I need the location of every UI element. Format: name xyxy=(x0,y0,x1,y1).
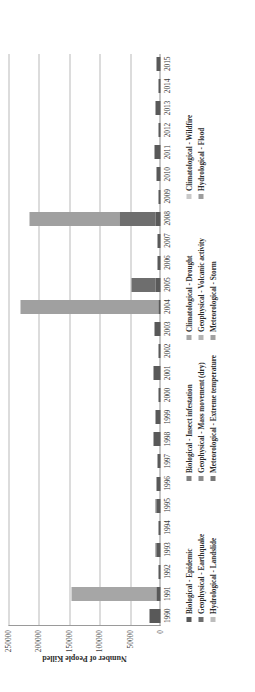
bar-column[interactable] xyxy=(8,388,160,402)
bar-segment[interactable] xyxy=(158,388,160,402)
x-axis-tick-label: 2014 xyxy=(162,79,176,93)
bar-segment[interactable] xyxy=(154,322,160,336)
bar-column[interactable] xyxy=(8,145,160,159)
legend-item[interactable]: Geophysical - Earthquake xyxy=(196,481,205,622)
x-axis-tick-label: 2002 xyxy=(162,344,176,358)
legend-item-label: Geophysical - Earthquake xyxy=(196,534,205,614)
y-axis-tick-label: 250000 xyxy=(4,630,12,652)
bar-column[interactable] xyxy=(8,278,160,292)
legend-item[interactable]: Meteorological - Extreme temperature xyxy=(208,340,217,481)
x-axis-tick-label: 2013 xyxy=(162,101,176,115)
x-axis-tick-label: 1993 xyxy=(162,543,176,557)
bar-column[interactable] xyxy=(8,543,160,557)
bar-segment[interactable] xyxy=(29,212,118,226)
legend-swatch-icon xyxy=(186,617,191,622)
legend-swatch-icon xyxy=(198,194,203,199)
bar-segment[interactable] xyxy=(71,587,156,601)
bar-segment[interactable] xyxy=(157,454,160,468)
x-axis-tick-label: 2000 xyxy=(162,388,176,402)
bar-segment[interactable] xyxy=(155,278,160,292)
bar-column[interactable] xyxy=(8,587,160,601)
bar-segment[interactable] xyxy=(158,521,160,535)
legend-item-label: Geophysical - Volcanic activity xyxy=(196,238,205,332)
x-axis-tick-label: 2015 xyxy=(162,57,176,71)
bar-segment[interactable] xyxy=(156,57,160,71)
bar-segment[interactable] xyxy=(131,278,155,292)
bar-column[interactable] xyxy=(8,521,160,535)
bar-segment[interactable] xyxy=(157,234,160,248)
bar-segment[interactable] xyxy=(154,145,160,159)
legend-item-label: Hydrological - Flood xyxy=(196,128,205,191)
x-axis-tick-label: 2006 xyxy=(162,256,176,270)
legend-item-label: Meteorological - Extreme temperature xyxy=(208,355,217,473)
legend-column: Climatological - WildfireHydrological - … xyxy=(184,58,217,199)
bar-column[interactable] xyxy=(8,344,160,358)
bar-column[interactable] xyxy=(8,57,160,71)
bar-segment[interactable] xyxy=(153,432,160,446)
legend-swatch-icon xyxy=(210,335,215,340)
legend-item[interactable]: Geophysical - Volcanic activity xyxy=(196,199,205,340)
bar-column[interactable] xyxy=(8,609,160,623)
legend-item[interactable]: Biological - Epidemic xyxy=(184,481,193,622)
bar-column[interactable] xyxy=(8,212,160,226)
bar-column[interactable] xyxy=(8,366,160,380)
bar-segment[interactable] xyxy=(155,410,160,424)
bar-segment[interactable] xyxy=(156,499,160,513)
chart-figure: Number of People Killed 2500002000001500… xyxy=(0,0,255,692)
bar-segment[interactable] xyxy=(119,212,155,226)
bar-column[interactable] xyxy=(8,322,160,336)
bar-column[interactable] xyxy=(8,477,160,491)
bar-column[interactable] xyxy=(8,79,160,93)
y-axis-tick-labels: 250000200000150000100000500000 xyxy=(8,630,160,692)
legend-item[interactable]: Biological - Insect infestation xyxy=(184,340,193,481)
x-axis-tick-label: 2004 xyxy=(162,300,176,314)
legend-item[interactable]: Geophysical - Mass movement (dry) xyxy=(196,340,205,481)
bar-column[interactable] xyxy=(8,123,160,137)
x-axis-tick-label: 2003 xyxy=(162,322,176,336)
bar-column[interactable] xyxy=(8,300,160,314)
legend-item[interactable]: Hydrological - Landslide xyxy=(208,481,217,622)
y-axis-tick-label: 200000 xyxy=(34,630,42,652)
bar-column[interactable] xyxy=(8,499,160,513)
bar-segment[interactable] xyxy=(158,300,160,314)
bar-column[interactable] xyxy=(8,410,160,424)
bar-column[interactable] xyxy=(8,190,160,204)
x-axis-tick-label: 2007 xyxy=(162,234,176,248)
bar-segment[interactable] xyxy=(156,477,160,491)
legend-item-label: Meteorological - Storm xyxy=(208,261,217,332)
bar-column[interactable] xyxy=(8,454,160,468)
bar-segment[interactable] xyxy=(156,587,160,601)
bar-segment[interactable] xyxy=(153,366,160,380)
legend-swatch-icon xyxy=(186,476,191,481)
bar-column[interactable] xyxy=(8,256,160,270)
bar-segment[interactable] xyxy=(157,256,160,270)
x-axis-tick-label: 2011 xyxy=(162,145,176,159)
bar-segment[interactable] xyxy=(20,300,157,314)
legend-item[interactable]: Climatological - Wildfire xyxy=(184,58,193,199)
bar-column[interactable] xyxy=(8,234,160,248)
x-axis-tick-label: 1995 xyxy=(162,499,176,513)
bar-column[interactable] xyxy=(8,432,160,446)
legend-swatch-icon xyxy=(198,476,203,481)
bar-segment[interactable] xyxy=(158,79,160,93)
x-axis-tick-label: 2008 xyxy=(162,212,176,226)
bar-segment[interactable] xyxy=(156,543,160,557)
bar-segment[interactable] xyxy=(158,344,160,358)
legend-item[interactable]: Climatological - Drought xyxy=(184,199,193,340)
legend-item-label: Biological - Insect infestation xyxy=(184,384,193,473)
bar-column[interactable] xyxy=(8,565,160,579)
legend-swatch-icon xyxy=(210,476,215,481)
bar-column[interactable] xyxy=(8,101,160,115)
bar-segment[interactable] xyxy=(156,167,160,181)
legend-item[interactable]: Hydrological - Flood xyxy=(196,58,205,199)
bar-segment[interactable] xyxy=(158,565,160,579)
bar-segment[interactable] xyxy=(158,123,160,137)
bar-segment[interactable] xyxy=(155,212,160,226)
x-axis-tick-label: 2010 xyxy=(162,167,176,181)
bar-column[interactable] xyxy=(8,167,160,181)
bar-segment[interactable] xyxy=(149,609,160,623)
legend-item[interactable]: Meteorological - Storm xyxy=(208,199,217,340)
bar-segment[interactable] xyxy=(155,101,160,115)
bar-segment[interactable] xyxy=(158,190,160,204)
bar-series-container xyxy=(8,54,160,626)
